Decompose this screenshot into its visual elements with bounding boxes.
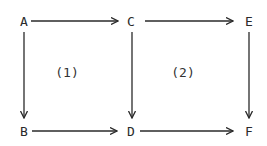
node-d: D — [127, 125, 135, 138]
region-label-2: (2) — [171, 66, 194, 79]
node-b: B — [20, 125, 28, 138]
node-f: F — [245, 125, 253, 138]
node-c: C — [127, 15, 135, 28]
node-a: A — [20, 15, 28, 28]
node-e: E — [245, 15, 253, 28]
region-label-1: (1) — [55, 66, 78, 79]
commutative-diagram: A C E B D F (1) (2) — [0, 0, 267, 146]
